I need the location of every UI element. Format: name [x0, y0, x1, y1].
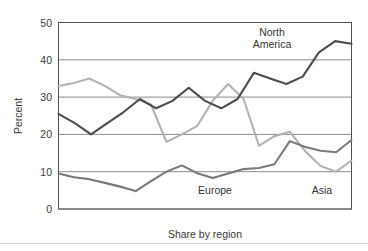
- europe-label: Europe: [198, 184, 232, 196]
- y-tick-label-40: 40: [40, 54, 52, 66]
- y-tick-label-0: 0: [46, 203, 52, 215]
- y-axis-title: Percent: [12, 98, 24, 134]
- asia-label: Asia: [312, 184, 333, 196]
- chart-background: [0, 0, 368, 251]
- y-tick-label-30: 30: [40, 91, 52, 103]
- north-america-label-line2: America: [253, 38, 292, 50]
- footer-divider: [0, 243, 368, 244]
- line-chart: 01020304050 Percent Share by region Nort…: [0, 0, 368, 251]
- y-tick-label-10: 10: [40, 166, 52, 178]
- north-america-label-line1: North: [259, 26, 285, 38]
- x-axis-title: Share by region: [168, 228, 242, 240]
- chart-figure: 01020304050 Percent Share by region Nort…: [0, 0, 368, 251]
- y-tick-label-20: 20: [40, 128, 52, 140]
- y-tick-label-50: 50: [40, 17, 52, 29]
